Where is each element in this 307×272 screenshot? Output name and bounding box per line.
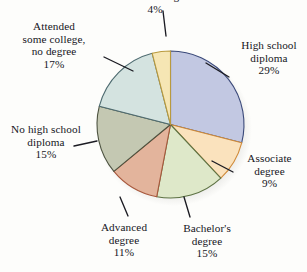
- pie-chart-figure: advanced degree 4% Attended some college…: [0, 0, 307, 272]
- slice-label-text: degree: [86, 234, 162, 247]
- slice-percent: 9%: [233, 177, 306, 190]
- slice-label-text: diploma: [232, 52, 306, 65]
- slice-percent: 4%: [103, 3, 207, 16]
- slice-percent: 11%: [86, 246, 162, 259]
- slice-label-high-school-diploma: High school diploma 29%: [232, 39, 306, 77]
- slice-percent: 17%: [2, 58, 106, 71]
- slice-label-advanced-degree-top: advanced degree 4%: [103, 0, 207, 15]
- slice-percent: 29%: [232, 64, 306, 77]
- slice-label-bachelors-degree: Bachelor's degree 15%: [170, 222, 244, 260]
- slice-label-text: some college,: [2, 33, 106, 46]
- slice-label-text: diploma: [0, 136, 92, 149]
- leader-line-advanced: [120, 197, 128, 216]
- slice-label-text: Advanced: [86, 221, 162, 234]
- slice-label-advanced-degree: Advanced degree 11%: [86, 221, 162, 259]
- slice-label-text: Attended: [2, 20, 106, 33]
- slice-percent: 15%: [0, 148, 92, 161]
- slice-label-text: no degree: [2, 45, 106, 58]
- slice-label-attended-some-college: Attended some college, no degree 17%: [2, 20, 106, 70]
- slice-percent: 15%: [170, 247, 244, 260]
- slice-label-text: degree: [233, 165, 306, 178]
- slice-label-text: degree: [170, 235, 244, 248]
- slice-label-no-high-school-diploma: No high school diploma 15%: [0, 123, 92, 161]
- slice-label-text: Associate: [233, 152, 306, 165]
- slice-label-text: High school: [232, 39, 306, 52]
- slice-label-text: No high school: [0, 123, 92, 136]
- slice-label-associate-degree: Associate degree 9%: [233, 152, 306, 190]
- slice-label-text: Bachelor's: [170, 222, 244, 235]
